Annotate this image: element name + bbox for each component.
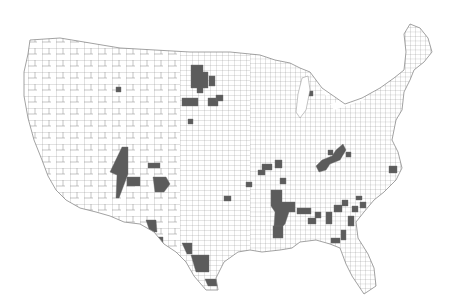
map-canvas bbox=[0, 0, 459, 308]
highlighted-county-new-mexico-north bbox=[148, 163, 160, 168]
us-county-map bbox=[0, 0, 459, 308]
highlighted-county-north-dakota-east-block bbox=[209, 76, 215, 86]
highlighted-county-kentucky-small-1 bbox=[328, 150, 333, 155]
highlighted-county-arkansas-block bbox=[262, 164, 272, 170]
highlighted-county-oklahoma-east bbox=[224, 196, 231, 201]
highlighted-county-montana-single bbox=[116, 87, 121, 92]
highlighted-county-alabama-belt-3 bbox=[315, 212, 321, 218]
western-counties bbox=[0, 0, 180, 308]
highlighted-county-south-carolina-3 bbox=[360, 202, 366, 208]
highlighted-county-kentucky-small-2 bbox=[346, 152, 351, 157]
highlighted-county-alabama-belt-1 bbox=[297, 208, 311, 214]
highlighted-county-florida-panhandle bbox=[331, 238, 340, 243]
highlighted-county-tennessee-west bbox=[246, 182, 252, 187]
highlighted-county-south-carolina-2 bbox=[352, 206, 358, 212]
highlighted-county-georgia-south bbox=[341, 230, 346, 240]
highlighted-county-north-carolina-coast bbox=[389, 166, 397, 173]
highlighted-county-new-mexico-block bbox=[127, 177, 140, 186]
highlighted-county-nebraska-small bbox=[188, 119, 193, 124]
highlighted-county-georgia-belt-3 bbox=[348, 216, 354, 226]
highlighted-county-arkansas-east bbox=[275, 160, 282, 168]
highlighted-county-georgia-belt-2 bbox=[334, 205, 342, 212]
highlighted-county-louisiana-north bbox=[273, 226, 283, 238]
highlighted-county-texas-west-border bbox=[155, 237, 163, 250]
highlighted-county-south-dakota-east-small bbox=[216, 95, 223, 101]
highlighted-county-south-carolina-1 bbox=[342, 200, 348, 206]
highlighted-county-alabama-belt-2 bbox=[308, 218, 316, 224]
county-layer bbox=[0, 0, 459, 308]
highlighted-county-mississippi-east bbox=[258, 170, 265, 175]
highlighted-county-georgia-belt-1 bbox=[326, 212, 332, 224]
highlighted-county-south-carolina-4 bbox=[356, 196, 362, 200]
highlighted-county-missouri-boot bbox=[280, 178, 286, 184]
eastern-counties bbox=[250, 0, 459, 308]
plains-counties bbox=[180, 0, 250, 308]
highlighted-county-south-dakota-south-west bbox=[182, 98, 198, 106]
highlighted-county-north-dakota-top bbox=[205, 43, 211, 49]
